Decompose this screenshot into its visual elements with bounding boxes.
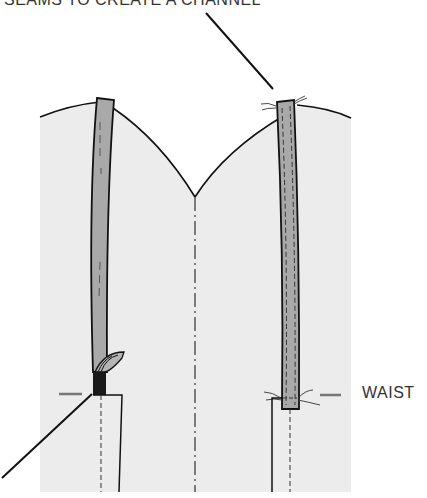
sewing-diagram (0, 0, 427, 498)
left-strap-end (93, 372, 106, 395)
leader-line-top (206, 13, 273, 89)
